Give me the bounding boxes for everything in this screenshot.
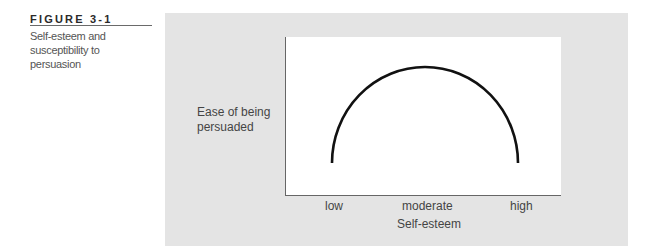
- y-axis-label: Ease of being persuaded: [197, 105, 270, 135]
- x-tick-low: low: [325, 199, 343, 213]
- x-tick-high: high: [510, 199, 533, 213]
- y-axis-label-line: persuaded: [197, 120, 270, 135]
- x-tick-moderate: moderate: [402, 199, 453, 213]
- x-axis-label: Self-esteem: [397, 217, 461, 231]
- y-axis-label-line: Ease of being: [197, 105, 270, 120]
